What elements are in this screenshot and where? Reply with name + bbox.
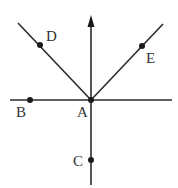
- point-b: [27, 97, 33, 103]
- point-a: [88, 97, 94, 103]
- point-e: [139, 43, 145, 49]
- point-d: [37, 42, 43, 48]
- geometry-diagram: D E B A C: [0, 0, 178, 188]
- label-a: A: [77, 104, 88, 120]
- label-c: C: [73, 153, 83, 169]
- arrow-up-icon: [88, 15, 95, 27]
- point-c: [88, 157, 94, 163]
- label-d: D: [46, 28, 57, 44]
- label-b: B: [16, 104, 26, 120]
- label-e: E: [146, 50, 155, 66]
